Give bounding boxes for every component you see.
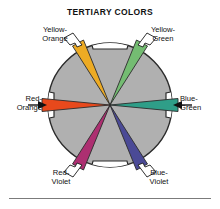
rim-notch-top [87, 25, 133, 49]
label-blue-green-line2: Green [180, 104, 220, 113]
label-red-orange: Red- Orange [2, 95, 42, 112]
label-blue-green: Blue- Green [180, 95, 220, 112]
rim-notch-bottom [87, 161, 133, 185]
label-blue-violet-line2: Violet [130, 178, 188, 187]
label-yellow-orange: Yellow- Orange [26, 26, 84, 43]
tertiary-colors-figure: TERTIARY COLORS [0, 0, 220, 209]
label-red-orange-line2: Orange [2, 104, 42, 113]
label-yellow-green-line2: Green [134, 35, 192, 44]
label-red-violet-line2: Violet [32, 178, 90, 187]
label-red-violet: Red- Violet [32, 169, 90, 186]
label-blue-violet: Blue- Violet [130, 169, 188, 186]
footer-rule [9, 198, 211, 199]
label-yellow-green: Yellow- Green [134, 26, 192, 43]
label-yellow-orange-line2: Orange [26, 35, 84, 44]
